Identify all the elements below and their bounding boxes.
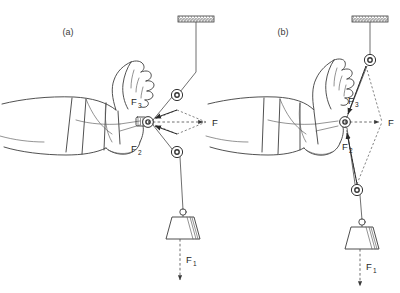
panel-b-upper-pulley bbox=[364, 54, 375, 65]
panel-a-f3-label: F bbox=[131, 96, 137, 107]
panel-a-f1-subscript: 1 bbox=[193, 260, 197, 267]
figure-background bbox=[0, 0, 400, 293]
panel-a-resultant-label: F bbox=[212, 117, 218, 128]
panel-b-f2-label: F bbox=[342, 141, 348, 152]
traction-figure: (a) bbox=[0, 0, 400, 293]
panel-a-lower-pulley bbox=[171, 146, 182, 157]
panel-a-f2-label: F bbox=[131, 143, 137, 154]
panel-a-f3-subscript: 3 bbox=[138, 102, 142, 109]
panel-b-f3-subscript: 3 bbox=[355, 101, 359, 108]
panel-b-label: (b) bbox=[278, 27, 289, 37]
panel-b-f2-subscript: 2 bbox=[349, 147, 353, 154]
panel-a-f1-label: F bbox=[186, 254, 192, 265]
panel-a-label: (a) bbox=[63, 27, 74, 37]
panel-a-f2-subscript: 2 bbox=[138, 149, 142, 156]
panel-a-upper-pulley bbox=[171, 89, 182, 100]
panel-b-f3-label: F bbox=[348, 95, 354, 106]
panel-b-lower-pulley bbox=[351, 184, 362, 195]
panel-b-f1-label: F bbox=[366, 261, 372, 272]
panel-b-f1-subscript: 1 bbox=[373, 267, 377, 274]
panel-b-resultant-label: F bbox=[388, 117, 394, 128]
